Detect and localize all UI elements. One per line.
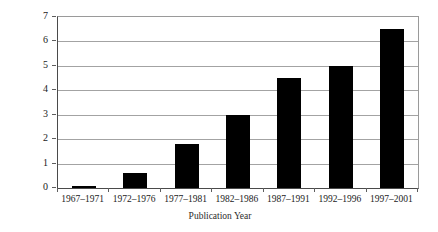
bar	[175, 144, 199, 188]
bar-slot	[109, 17, 160, 188]
bar-slot	[58, 17, 109, 188]
y-axis-tick-mark	[52, 163, 56, 164]
y-axis-tick-label: 4	[32, 83, 48, 95]
y-axis-tick-mark	[52, 138, 56, 139]
x-axis-tick-label: 1992–1996	[314, 192, 365, 206]
bar-series	[58, 17, 418, 188]
bar	[380, 29, 404, 188]
bar	[329, 66, 353, 188]
x-axis-tick-mark	[417, 188, 418, 192]
y-axis-tick-label: 0	[32, 181, 48, 193]
y-axis-tick-label: 5	[32, 59, 48, 71]
x-axis-tick-labels: 1967–19711972–19761977–19811982–19861987…	[57, 192, 417, 206]
y-axis-tick-label: 1	[32, 157, 48, 169]
x-axis-tick-label: 1987–1991	[263, 192, 314, 206]
bar-slot	[212, 17, 263, 188]
x-axis-tick-label: 1972–1976	[108, 192, 159, 206]
bar	[123, 173, 147, 188]
bar-slot	[264, 17, 315, 188]
x-axis-tick-label: 1977–1981	[160, 192, 211, 206]
y-axis-tick-mark	[52, 16, 56, 17]
y-axis-tick-label: 3	[32, 108, 48, 120]
bar-slot	[367, 17, 418, 188]
bar-chart-figure: % Risk Articles 01234567 1967–19711972–1…	[0, 0, 438, 232]
x-axis-tick-label: 1997–2001	[366, 192, 417, 206]
bar-slot	[161, 17, 212, 188]
bar	[277, 78, 301, 188]
y-axis-tick-mark	[52, 114, 56, 115]
y-axis-tick-mark	[52, 187, 56, 188]
y-axis-tick-mark	[52, 65, 56, 66]
bar	[226, 115, 250, 188]
y-axis-tick-label: 6	[32, 34, 48, 46]
x-axis-tick-label: 1967–1971	[57, 192, 108, 206]
x-axis-tick-label: 1982–1986	[211, 192, 262, 206]
y-axis-tick-labels: 01234567	[32, 10, 52, 193]
x-axis-title: Publication Year	[140, 210, 300, 222]
y-axis-tick-mark	[52, 89, 56, 90]
y-axis-tick-label: 2	[32, 132, 48, 144]
y-axis-tick-mark	[52, 40, 56, 41]
plot-area	[57, 16, 419, 189]
bar-slot	[315, 17, 366, 188]
y-axis-tick-label: 7	[32, 10, 48, 22]
